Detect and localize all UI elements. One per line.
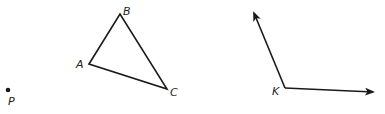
ray-upper-arrow	[254, 13, 285, 88]
vertex-k-label: K	[272, 85, 280, 98]
vertex-b-label: B	[123, 5, 131, 18]
point-p-dot	[6, 88, 11, 93]
ray-right-arrow	[285, 88, 373, 92]
geometry-diagram: P A B C K	[0, 0, 385, 114]
point-p-label: P	[8, 95, 15, 108]
vertex-a-label: A	[75, 58, 84, 71]
triangle-abc	[89, 14, 167, 89]
vertex-c-label: C	[170, 86, 178, 99]
